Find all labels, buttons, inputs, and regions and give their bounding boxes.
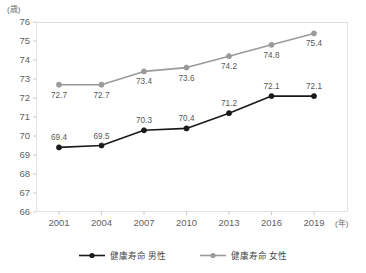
data-point-marker — [184, 126, 189, 131]
legend-marker-icon — [79, 251, 105, 260]
data-point-marker — [311, 94, 316, 99]
data-point-marker — [269, 94, 274, 99]
data-point-label: 72.1 — [297, 82, 331, 91]
legend-label: 健康寿命 男性 — [110, 249, 166, 261]
data-point-marker — [184, 65, 189, 70]
data-point-marker — [141, 128, 146, 133]
data-point-label: 70.4 — [170, 114, 204, 123]
data-point-marker — [56, 145, 61, 150]
data-point-label: 75.4 — [297, 39, 331, 48]
legend-marker-icon — [200, 251, 226, 260]
data-point-label: 73.4 — [127, 77, 161, 86]
line-chart: (歳) 6667686970717273747576 2001200420072… — [0, 0, 366, 273]
data-point-label: 74.8 — [255, 51, 289, 60]
data-point-label: 73.6 — [170, 74, 204, 83]
data-point-label: 72.7 — [42, 91, 76, 100]
data-point-label: 71.2 — [212, 99, 246, 108]
data-point-label: 72.1 — [255, 82, 289, 91]
data-point-marker — [56, 82, 61, 87]
data-point-marker — [311, 31, 316, 36]
legend-item[interactable]: 健康寿命 女性 — [200, 249, 287, 261]
data-point-label: 69.4 — [42, 133, 76, 142]
legend-label: 健康寿命 女性 — [231, 249, 287, 261]
data-point-label: 70.3 — [127, 116, 161, 125]
data-point-marker — [269, 42, 274, 47]
data-point-label: 69.5 — [85, 132, 119, 141]
data-point-label: 72.7 — [85, 91, 119, 100]
chart-legend: 健康寿命 男性健康寿命 女性 — [0, 249, 366, 261]
data-point-label: 74.2 — [212, 62, 246, 71]
legend-item[interactable]: 健康寿命 男性 — [79, 249, 166, 261]
data-point-marker — [99, 143, 104, 148]
data-point-marker — [99, 82, 104, 87]
data-point-marker — [141, 69, 146, 74]
data-point-marker — [226, 111, 231, 116]
data-point-marker — [226, 54, 231, 59]
